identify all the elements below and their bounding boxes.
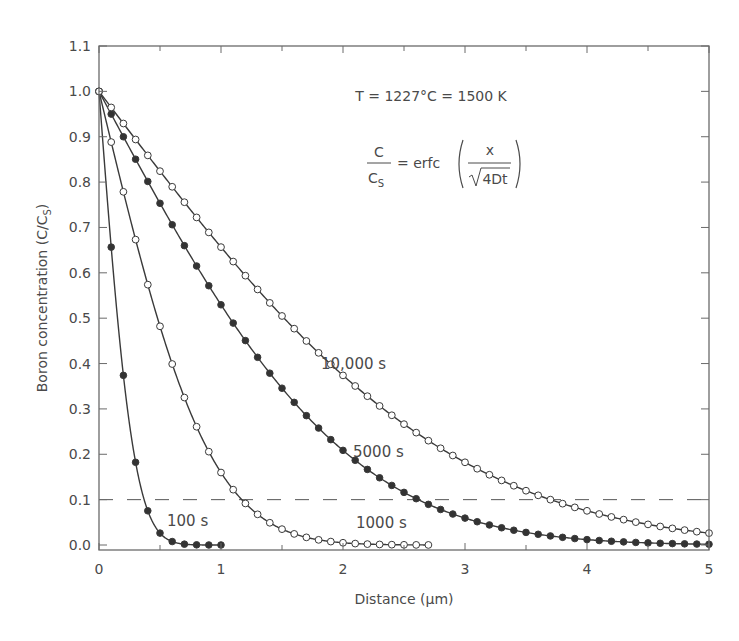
y-tick-label: 1.1 bbox=[69, 38, 91, 54]
open-marker bbox=[596, 511, 603, 518]
equation-annotation: C CS = erfc x 4Dt bbox=[367, 140, 520, 189]
open-marker bbox=[181, 394, 188, 401]
filled-marker bbox=[108, 111, 115, 118]
open-marker bbox=[327, 538, 334, 545]
x-tick-label: 4 bbox=[583, 561, 592, 577]
y-axis-title-main: Boron concentration (C/C bbox=[34, 215, 50, 392]
y-tick-label: 0.8 bbox=[69, 174, 91, 190]
filled-marker bbox=[535, 531, 542, 538]
open-marker bbox=[108, 139, 115, 146]
x-tick-label: 1 bbox=[217, 561, 226, 577]
filled-marker bbox=[169, 538, 176, 545]
open-marker bbox=[315, 536, 322, 543]
open-marker bbox=[413, 541, 420, 548]
open-marker bbox=[486, 471, 493, 478]
open-marker bbox=[181, 199, 188, 206]
filled-marker bbox=[340, 447, 347, 454]
y-tick-label: 0.5 bbox=[69, 310, 91, 326]
open-marker bbox=[584, 507, 591, 514]
open-marker bbox=[303, 534, 310, 541]
open-marker bbox=[169, 361, 176, 368]
filled-marker bbox=[559, 534, 566, 541]
filled-marker bbox=[206, 542, 213, 549]
x-tick-label: 2 bbox=[339, 561, 348, 577]
open-marker bbox=[425, 437, 432, 444]
filled-marker bbox=[389, 482, 396, 489]
open-marker bbox=[230, 258, 237, 265]
filled-marker bbox=[584, 536, 591, 543]
y-tick-label: 0.3 bbox=[69, 401, 91, 417]
filled-marker bbox=[486, 522, 493, 529]
open-marker bbox=[266, 300, 273, 307]
open-marker bbox=[645, 521, 652, 528]
x-tick-label: 5 bbox=[705, 561, 714, 577]
filled-marker bbox=[181, 541, 188, 548]
temperature-annotation: T = 1227°C = 1500 K bbox=[354, 88, 507, 104]
open-marker bbox=[535, 492, 542, 499]
left-paren-icon bbox=[459, 140, 463, 188]
open-marker bbox=[437, 445, 444, 452]
filled-marker bbox=[572, 535, 579, 542]
filled-marker bbox=[267, 370, 274, 377]
filled-marker bbox=[230, 320, 237, 327]
y-tick-label: 1.0 bbox=[69, 83, 91, 99]
filled-marker bbox=[596, 537, 603, 544]
plot-frame bbox=[99, 46, 709, 550]
y-axis-title-close: ) bbox=[34, 204, 50, 209]
equation-lhs-den-subscript: S bbox=[378, 178, 384, 189]
filled-marker bbox=[303, 412, 310, 419]
equation-lhs-numerator: C bbox=[374, 144, 384, 160]
curve-line bbox=[99, 91, 221, 545]
equation-rhs-denominator: 4Dt bbox=[482, 171, 508, 187]
filled-marker bbox=[620, 539, 627, 546]
filled-marker bbox=[437, 506, 444, 513]
y-tick-label: 0.2 bbox=[69, 446, 91, 462]
open-marker bbox=[254, 511, 261, 518]
filled-marker bbox=[681, 541, 688, 548]
open-marker bbox=[413, 429, 420, 436]
open-marker bbox=[132, 136, 139, 143]
x-tick-label: 3 bbox=[461, 561, 470, 577]
filled-marker bbox=[157, 200, 164, 207]
open-marker bbox=[388, 541, 395, 548]
filled-marker bbox=[145, 178, 152, 185]
open-marker bbox=[352, 540, 359, 547]
open-marker bbox=[230, 486, 237, 493]
filled-marker bbox=[132, 156, 139, 163]
open-marker bbox=[193, 423, 200, 430]
open-marker bbox=[657, 523, 664, 530]
open-marker bbox=[693, 528, 700, 535]
open-marker bbox=[498, 477, 505, 484]
x-axis-title: Distance (µm) bbox=[354, 591, 453, 607]
filled-marker bbox=[291, 399, 298, 406]
open-marker bbox=[169, 183, 176, 190]
open-marker bbox=[218, 244, 225, 251]
open-marker bbox=[266, 519, 273, 526]
open-marker bbox=[303, 338, 310, 345]
y-tick-label: 0.9 bbox=[69, 129, 91, 145]
chart-canvas: 0123450.00.10.20.30.40.50.60.70.80.91.01… bbox=[0, 0, 739, 641]
open-marker bbox=[242, 272, 249, 279]
open-marker bbox=[376, 541, 383, 548]
open-marker bbox=[218, 469, 225, 476]
equation-erfc: = erfc bbox=[397, 155, 440, 171]
equation-lhs-den-text: C bbox=[368, 170, 378, 186]
curve-labels: 100 s1000 s5000 s10,000 s bbox=[167, 355, 407, 532]
filled-marker bbox=[425, 501, 432, 508]
open-marker bbox=[144, 281, 151, 288]
open-marker bbox=[462, 459, 469, 466]
x-tick-label: 0 bbox=[95, 561, 104, 577]
open-marker bbox=[291, 530, 298, 537]
open-marker bbox=[547, 496, 554, 503]
equation-rhs-numerator: x bbox=[486, 142, 494, 158]
filled-marker bbox=[547, 533, 554, 540]
open-marker bbox=[157, 168, 164, 175]
filled-marker bbox=[120, 133, 127, 140]
open-marker bbox=[120, 120, 127, 127]
right-paren-icon bbox=[516, 140, 520, 188]
open-marker bbox=[571, 504, 578, 511]
filled-marker bbox=[242, 337, 249, 344]
open-marker bbox=[364, 393, 371, 400]
open-marker bbox=[193, 214, 200, 221]
open-marker bbox=[388, 412, 395, 419]
